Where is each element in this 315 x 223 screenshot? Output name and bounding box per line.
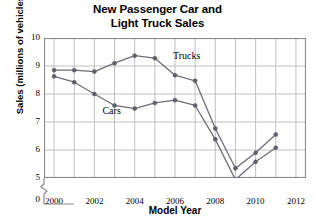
x-axis-label: Model Year	[44, 205, 306, 216]
chart-title-line-1: New Passenger Car and	[0, 2, 315, 16]
series-label-trucks: Trucks	[173, 50, 200, 61]
chart-title: New Passenger Car and Light Truck Sales	[0, 2, 315, 30]
y-tick-10: 10	[22, 32, 40, 42]
y-tick-8: 8	[22, 88, 40, 98]
y-tick-7: 7	[22, 116, 40, 126]
chart-title-line-2: Light Truck Sales	[0, 16, 315, 30]
y-tick-6: 6	[22, 144, 40, 154]
y-axis-break	[34, 178, 74, 212]
series-label-cars: Cars	[102, 105, 120, 116]
chart-container: New Passenger Car and Light Truck Sales …	[0, 0, 315, 223]
y-tick-9: 9	[22, 60, 40, 70]
